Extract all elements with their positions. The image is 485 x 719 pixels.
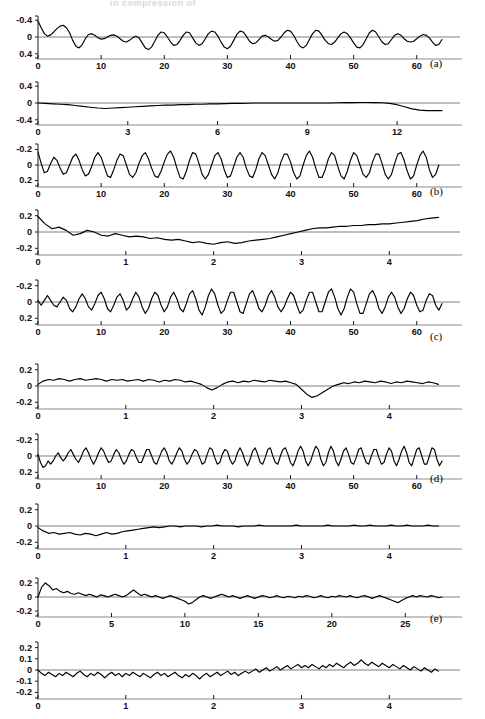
y-tick-label: -0.2 bbox=[16, 397, 32, 407]
group-label-d: (d) bbox=[430, 472, 443, 484]
plot-panel-9: 0.20-0.20510152025 bbox=[0, 574, 485, 638]
x-tick-label: 9 bbox=[305, 127, 310, 137]
x-tick-label: 1 bbox=[123, 411, 128, 421]
x-tick-label: 40 bbox=[285, 481, 295, 491]
x-tick-label: 0 bbox=[35, 701, 40, 711]
data-trace bbox=[38, 525, 438, 536]
plot-panel-8: 0.20-0.201234 bbox=[0, 500, 485, 570]
y-tick-label: 0 bbox=[27, 381, 32, 391]
x-tick-label: 60 bbox=[412, 481, 422, 491]
y-tick-label: 0 bbox=[27, 665, 32, 675]
plot-panel-3: -0.200.20102030405060 bbox=[0, 140, 485, 208]
x-tick-label: 4 bbox=[387, 551, 393, 561]
plot-panel-7: -0.200.20102030405060 bbox=[0, 430, 485, 500]
y-tick-label: 0.4 bbox=[19, 81, 33, 91]
plot-area: 0.40-0.4036912 bbox=[0, 78, 485, 146]
plot-panel-2: 0.40-0.4036912 bbox=[0, 78, 485, 146]
x-tick-label: 15 bbox=[253, 619, 263, 629]
plot-panel-4: 0.20-0.201234 bbox=[0, 206, 485, 276]
y-tick-label: -0.2 bbox=[16, 243, 32, 253]
x-tick-label: 10 bbox=[96, 481, 106, 491]
y-tick-label: 0 bbox=[27, 98, 32, 108]
y-tick-label: -0.4 bbox=[16, 115, 33, 125]
figure-page: in compression of -0.400.401020304050600… bbox=[0, 0, 485, 719]
x-tick-label: 20 bbox=[159, 61, 169, 71]
y-tick-label: -0.2 bbox=[16, 606, 32, 616]
x-tick-label: 5 bbox=[109, 619, 114, 629]
plot-area: -0.200.20102030405060 bbox=[0, 430, 485, 500]
x-tick-label: 2 bbox=[211, 701, 216, 711]
data-trace bbox=[38, 583, 442, 604]
x-tick-label: 4 bbox=[387, 411, 393, 421]
group-label-c: (c) bbox=[430, 330, 442, 342]
plot-area: 0.20-0.201234 bbox=[0, 206, 485, 276]
x-tick-label: 1 bbox=[123, 257, 128, 267]
x-tick-label: 3 bbox=[299, 551, 304, 561]
x-tick-label: 1 bbox=[123, 701, 128, 711]
y-tick-label: 0 bbox=[27, 32, 32, 42]
x-tick-label: 0 bbox=[35, 327, 40, 337]
group-label-b: (b) bbox=[430, 185, 443, 197]
y-tick-label: -0.2 bbox=[16, 435, 32, 445]
plot-area: 0.20.10-0.1-0.201234 bbox=[0, 638, 485, 719]
y-tick-label: -0.2 bbox=[16, 281, 32, 291]
x-tick-label: 0 bbox=[35, 619, 40, 629]
x-tick-label: 20 bbox=[159, 327, 169, 337]
y-tick-label: 0.2 bbox=[19, 643, 32, 653]
x-tick-label: 0 bbox=[35, 61, 40, 71]
x-tick-label: 10 bbox=[96, 327, 106, 337]
x-tick-label: 2 bbox=[211, 257, 216, 267]
plot-panel-10: 0.20.10-0.1-0.201234 bbox=[0, 638, 485, 719]
plot-panel-1: -0.400.40102030405060 bbox=[0, 12, 485, 80]
x-tick-label: 40 bbox=[285, 327, 295, 337]
y-tick-label: 0 bbox=[27, 451, 32, 461]
x-tick-label: 3 bbox=[299, 701, 304, 711]
y-tick-label: 0.2 bbox=[19, 365, 32, 375]
x-tick-label: 4 bbox=[387, 257, 393, 267]
y-tick-label: 0.2 bbox=[19, 175, 32, 185]
plot-area: 0.20-0.201234 bbox=[0, 360, 485, 430]
x-tick-label: 20 bbox=[159, 189, 169, 199]
x-tick-label: 0 bbox=[35, 411, 40, 421]
x-tick-label: 60 bbox=[412, 61, 422, 71]
group-label-e: (e) bbox=[430, 612, 442, 624]
x-tick-label: 30 bbox=[222, 327, 232, 337]
x-tick-label: 30 bbox=[222, 61, 232, 71]
x-tick-label: 50 bbox=[349, 327, 359, 337]
data-trace bbox=[38, 103, 442, 111]
y-tick-label: -0.2 bbox=[16, 537, 32, 547]
plot-area: 0.20-0.201234 bbox=[0, 500, 485, 570]
x-tick-label: 50 bbox=[349, 189, 359, 199]
y-tick-label: -0.2 bbox=[16, 144, 32, 154]
data-trace bbox=[38, 21, 442, 50]
y-tick-label: 0 bbox=[27, 160, 32, 170]
y-tick-label: 0.2 bbox=[19, 467, 32, 477]
plot-area: -0.200.20102030405060 bbox=[0, 140, 485, 208]
x-tick-label: 60 bbox=[412, 327, 422, 337]
x-tick-label: 50 bbox=[349, 61, 359, 71]
x-tick-label: 12 bbox=[392, 127, 402, 137]
x-tick-label: 3 bbox=[299, 257, 304, 267]
y-tick-label: -0.1 bbox=[16, 676, 32, 686]
y-tick-label: 0 bbox=[27, 297, 32, 307]
x-tick-label: 2 bbox=[211, 411, 216, 421]
x-tick-label: 0 bbox=[35, 257, 40, 267]
x-tick-label: 0 bbox=[35, 551, 40, 561]
data-trace bbox=[38, 217, 438, 245]
y-tick-label: 0.4 bbox=[19, 49, 33, 59]
plot-panel-6: 0.20-0.201234 bbox=[0, 360, 485, 430]
x-tick-label: 4 bbox=[387, 701, 393, 711]
x-tick-label: 30 bbox=[222, 481, 232, 491]
x-tick-label: 10 bbox=[180, 619, 190, 629]
y-tick-label: -0.2 bbox=[16, 687, 32, 697]
x-tick-label: 10 bbox=[96, 61, 106, 71]
plot-area: 0.20-0.20510152025 bbox=[0, 574, 485, 638]
y-tick-label: 0.1 bbox=[19, 654, 32, 664]
x-tick-label: 2 bbox=[211, 551, 216, 561]
x-tick-label: 50 bbox=[349, 481, 359, 491]
plot-area: -0.200.20102030405060 bbox=[0, 276, 485, 346]
x-tick-label: 1 bbox=[123, 551, 128, 561]
data-trace bbox=[38, 446, 442, 467]
x-tick-label: 0 bbox=[35, 189, 40, 199]
plot-panel-5: -0.200.20102030405060 bbox=[0, 276, 485, 346]
